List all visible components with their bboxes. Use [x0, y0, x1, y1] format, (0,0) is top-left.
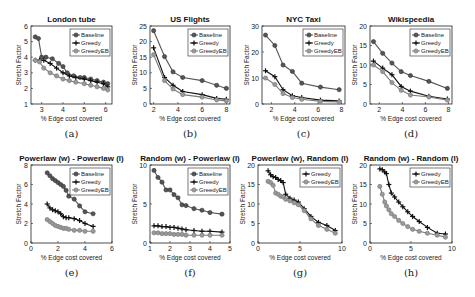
legend-entry: GreedyEB	[421, 48, 449, 54]
y-tick-label: 5	[24, 38, 28, 45]
panel-caption: (h)	[404, 267, 418, 278]
y-tick-label: 10	[139, 69, 147, 76]
chart-title: Wikispeedia	[388, 15, 435, 24]
x-axis-label: % Edge cost covered	[380, 254, 442, 262]
chart-panel-f: Random (w) - Powerlaw (l)123450510% Edge…	[131, 154, 240, 278]
figure-grid: London tube3456123456% Edge cost covered…	[0, 0, 475, 297]
legend-entry: GreedyEB	[199, 48, 227, 54]
x-tick-label: 4	[61, 106, 65, 113]
legend-entry: Baseline	[199, 171, 223, 177]
x-tick-label: 4	[293, 106, 297, 113]
panel-caption: (f)	[184, 267, 196, 278]
y-tick-label: 5	[251, 220, 255, 227]
y-tick-label: 15	[359, 42, 367, 49]
chart-title: Powerlaw (w), Random (l)	[252, 154, 349, 163]
y-tick-label: 0	[363, 240, 367, 247]
x-tick-label: 0	[29, 245, 33, 252]
legend-entry: GreedyEB	[81, 48, 109, 54]
chart-panel-e: Powerlaw (w) - Powerlaw (l)024602468% Ed…	[15, 154, 124, 278]
panel-caption: (a)	[65, 128, 79, 139]
x-tick-label: 4	[400, 106, 404, 113]
panel-caption: (d)	[404, 128, 418, 139]
legend: BaselineGreedyGreedyEB	[188, 168, 228, 195]
y-axis-label: Stretch Factor	[131, 44, 138, 86]
y-tick-label: 30	[251, 23, 259, 30]
y-tick-label: 0	[24, 240, 28, 247]
x-tick-label: 0	[368, 245, 372, 252]
legend-entry: Greedy	[81, 179, 101, 185]
y-tick-label: 25	[139, 23, 147, 30]
x-axis-label: % Edge cost covered	[269, 254, 331, 262]
chart-panel-a: London tube3456123456% Edge cost covered…	[15, 15, 112, 139]
series-greedyeb	[263, 76, 341, 104]
y-tick-label: 20	[359, 162, 367, 169]
x-tick-label: 2	[152, 106, 156, 113]
x-tick-label: 4	[208, 245, 212, 252]
x-axis-label: % Edge cost covered	[273, 115, 335, 123]
y-tick-label: 3	[24, 69, 28, 76]
y-tick-label: 10	[139, 162, 147, 169]
y-axis-label: Stretch Factor	[243, 44, 250, 86]
y-tick-label: 20	[139, 38, 147, 45]
x-tick-label: 2	[168, 245, 172, 252]
y-tick-label: 15	[247, 181, 255, 188]
y-tick-label: 6	[24, 23, 28, 30]
chart-title: NYC Taxi	[286, 15, 321, 24]
x-tick-label: 4	[176, 106, 180, 113]
y-tick-label: 20	[359, 23, 367, 30]
legend-entry: Baseline	[421, 32, 445, 38]
x-axis-label: % Edge cost covered	[41, 115, 103, 123]
x-tick-label: 5	[228, 245, 232, 252]
x-axis-label: % Edge cost covered	[41, 254, 103, 262]
legend-entry: Baseline	[81, 171, 105, 177]
series-greedyeb	[266, 179, 337, 235]
legend: BaselineGreedyGreedyEB	[410, 29, 450, 56]
legend: BaselineGreedyGreedyEB	[70, 29, 110, 56]
x-axis-label: % Edge cost covered	[159, 254, 221, 262]
chart-title: London tube	[47, 15, 96, 24]
y-tick-label: 0	[255, 101, 259, 108]
x-tick-label: 10	[338, 245, 346, 252]
series-greedyeb	[152, 53, 229, 103]
x-tick-label: 5	[409, 245, 413, 252]
y-axis-label: Stretch Factor	[15, 44, 22, 86]
legend-entry: GreedyEB	[311, 179, 339, 185]
chart-title: Random (w) - Powerlaw (l)	[140, 154, 240, 163]
panel-caption: (b)	[183, 128, 197, 139]
legend-entry: GreedyEB	[421, 179, 449, 185]
y-axis-label: Stretch Factor	[131, 183, 138, 225]
y-tick-label: 8	[24, 162, 28, 169]
chart-title: Powerlaw (w) - Powerlaw (l)	[19, 154, 124, 163]
y-tick-label: 10	[247, 201, 255, 208]
legend-entry: GreedyEB	[314, 48, 342, 54]
x-tick-label: 1	[148, 245, 152, 252]
x-tick-label: 6	[200, 106, 204, 113]
y-tick-label: 5	[143, 85, 147, 92]
panel-caption: (c)	[297, 128, 311, 139]
x-tick-label: 5	[298, 245, 302, 252]
chart-panel-c: NYC Taxi24680102030% Edge cost coveredSt…	[243, 15, 345, 139]
legend-entry: GreedyEB	[199, 187, 227, 193]
y-tick-label: 5	[363, 81, 367, 88]
y-tick-label: 0	[251, 240, 255, 247]
y-axis-label: Stretch Factor	[239, 183, 246, 225]
legend-entry: Greedy	[314, 40, 334, 46]
legend: GreedyGreedyEB	[300, 168, 340, 187]
series-greedyeb	[45, 218, 95, 234]
legend: GreedyGreedyEB	[410, 168, 450, 187]
y-tick-label: 15	[359, 181, 367, 188]
x-tick-label: 8	[447, 106, 451, 113]
legend-entry: Baseline	[81, 32, 105, 38]
y-tick-label: 4	[24, 54, 28, 61]
y-tick-label: 5	[143, 201, 147, 208]
legend-entry: Greedy	[421, 171, 441, 177]
x-tick-label: 0	[256, 245, 260, 252]
y-tick-label: 0	[143, 101, 147, 108]
y-tick-label: 10	[359, 201, 367, 208]
legend-entry: Baseline	[314, 32, 338, 38]
x-tick-label: 2	[269, 106, 273, 113]
y-tick-label: 20	[247, 162, 255, 169]
chart-panel-b: US Flights24680510152025% Edge cost cove…	[131, 15, 230, 139]
x-tick-label: 6	[423, 106, 427, 113]
y-tick-label: 6	[24, 181, 28, 188]
